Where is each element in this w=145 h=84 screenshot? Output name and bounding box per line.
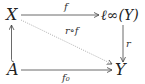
- node-A: A: [7, 62, 19, 78]
- label-r: r: [126, 39, 131, 49]
- label-r-compose-f: r∘f: [65, 26, 78, 36]
- node-Y: Y: [115, 62, 126, 78]
- label-f: f: [64, 2, 68, 12]
- node-X: X: [6, 7, 17, 23]
- node-linf-Y: ℓ∞(Y): [101, 7, 139, 23]
- arrow-inclusion-hook: [12, 25, 15, 62]
- label-f0: f₀: [62, 73, 70, 83]
